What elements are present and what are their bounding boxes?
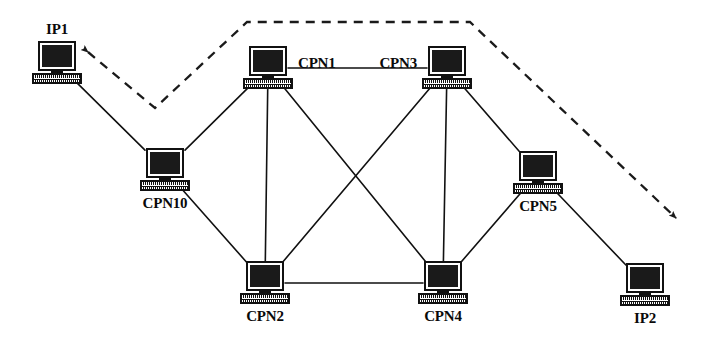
node-label-cpn3: CPN3 (379, 56, 417, 71)
desktop-computer-icon (138, 146, 192, 194)
node-label-cpn5: CPN5 (519, 199, 557, 214)
desktop-computer-icon (420, 44, 474, 92)
link-cpn10-cpn2 (183, 190, 248, 263)
link-cpn3-cpn5 (464, 88, 520, 153)
link-cpn3-cpn4 (443, 88, 446, 263)
desktop-computer-icon (30, 39, 84, 87)
node-label-cpn1: CPN1 (298, 56, 336, 71)
desktop-computer-icon (511, 149, 565, 197)
network-diagram: IP1CPN1CPN3CPN10CPN5CPN2CPN4IP2 (0, 0, 706, 343)
desktop-computer-icon (416, 259, 470, 307)
link-cpn5-ip2 (557, 193, 626, 265)
link-cpn1-cpn2 (265, 88, 267, 263)
node-label-cpn4: CPN4 (424, 309, 462, 324)
desktop-computer-icon (241, 44, 295, 92)
node-label-ip2: IP2 (634, 311, 656, 326)
diagram-canvas (0, 0, 706, 343)
link-cpn10-cpn1 (185, 88, 248, 150)
link-cpn5-cpn4 (460, 193, 520, 263)
node-label-cpn2: CPN2 (246, 309, 284, 324)
node-label-cpn10: CPN10 (143, 196, 188, 211)
link-cpn3-cpn2 (282, 88, 430, 263)
node-label-ip1: IP1 (46, 22, 68, 37)
desktop-computer-icon (238, 259, 292, 307)
desktop-computer-icon (618, 261, 672, 309)
link-ip1-cpn10 (77, 83, 145, 150)
